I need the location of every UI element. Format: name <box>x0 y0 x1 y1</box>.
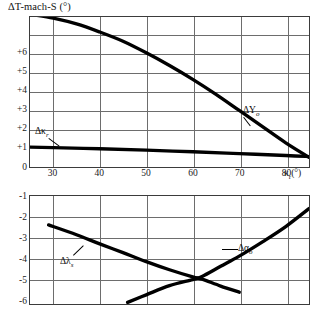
gridline-h-plus2 <box>30 111 309 112</box>
gridline-v-30 <box>53 17 54 167</box>
curve-label-delta-lambda: Δλs <box>60 256 73 269</box>
y-tick-bottom-2: -3 <box>1 233 27 243</box>
gridline-v-40-lower <box>100 196 101 304</box>
gridline-h-minus5 <box>30 280 309 281</box>
y-axis-tick-column: +6 +5 +4 +3 +2 +1 0 -1 -2 -3 -4 -5 -6 <box>0 16 27 305</box>
curve-delta-alpha <box>128 209 309 303</box>
y-tick-bottom-1: -2 <box>1 212 27 222</box>
gridline-v-50 <box>147 17 148 167</box>
y-tick-top-0: +6 <box>1 47 27 57</box>
curve-label-delta-alpha: Δαo <box>238 243 253 256</box>
gridline-v-60 <box>194 17 195 167</box>
chart-title: ΔT-mach-S (°) <box>8 1 71 12</box>
gridline-h-minus3 <box>30 238 309 239</box>
gridline-h-minus2 <box>30 217 309 218</box>
chart-root: ΔT-mach-S (°) +6 +5 +4 +3 +2 +1 0 -1 -2 … <box>0 0 329 312</box>
y-tick-top-4: +2 <box>1 123 27 133</box>
gridline-v-30-lower <box>53 196 54 304</box>
y-tick-bottom-3: -4 <box>1 254 27 264</box>
y-tick-top-2: +4 <box>1 85 27 95</box>
leader-delta-alpha <box>222 249 238 250</box>
gridline-v-40 <box>100 17 101 167</box>
y-tick-bottom-4: -5 <box>1 275 27 285</box>
gridline-v-80 <box>288 17 289 167</box>
y-tick-top-5: +1 <box>1 142 27 152</box>
curve-label-delta-kappa-base: Δκ <box>35 126 46 136</box>
gridline-v-50-lower <box>147 196 148 304</box>
gridline-v-70 <box>241 17 242 167</box>
gridline-h-plus5 <box>30 54 309 55</box>
lower-panel <box>29 195 310 305</box>
upper-panel <box>29 16 310 168</box>
gridline-h-plus4 <box>30 73 309 74</box>
y-tick-top-1: +5 <box>1 66 27 76</box>
curve-label-delta-lambda-sub: s <box>71 261 74 269</box>
lower-panel-curves <box>30 196 309 304</box>
gridline-h-plus1 <box>30 130 309 131</box>
curve-label-delta-alpha-sub: o <box>249 248 253 256</box>
curve-label-delta-y-base: ΔY <box>243 105 256 115</box>
y-tick-top-6: 0 <box>1 162 27 172</box>
curve-label-delta-y: ΔYo <box>243 105 259 118</box>
curve-delta-kappa <box>30 147 309 156</box>
curve-label-delta-lambda-base: Δλ <box>60 256 71 266</box>
gridline-v-80-lower <box>288 196 289 304</box>
y-tick-bottom-5: -6 <box>1 296 27 306</box>
curve-label-delta-alpha-base: Δα <box>238 243 249 253</box>
curve-delta-y <box>30 16 309 157</box>
y-tick-bottom-0: -1 <box>1 191 27 201</box>
chart-title-text: ΔT-mach-S (°) <box>8 1 71 12</box>
gridline-h-plus6 <box>30 35 309 36</box>
gridline-h-plus3 <box>30 92 309 93</box>
gridline-v-60-lower <box>194 196 195 304</box>
curve-label-delta-kappa: Δκr <box>35 126 49 139</box>
curve-label-delta-y-sub: o <box>256 110 260 118</box>
y-tick-top-3: +3 <box>1 104 27 114</box>
